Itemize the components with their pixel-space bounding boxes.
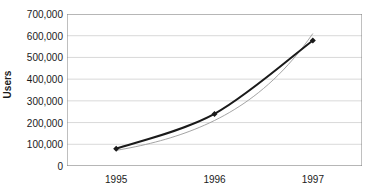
y-axis-title-label: Users [3,70,14,98]
trendline [116,34,313,151]
y-axis-tick-label: 0 [14,161,63,172]
data-series-line [116,40,313,148]
x-axis-tick-label: 1995 [105,174,127,185]
data-point-marker [113,146,119,152]
plot-frame [67,14,362,166]
y-axis-tick-label: 500,000 [14,52,63,63]
y-axis-tick-label: 100,000 [14,139,63,150]
gridlines [67,14,362,166]
y-axis-tick-label: 200,000 [14,117,63,128]
y-axis-tick-label: 700,000 [14,9,63,20]
plot-area [67,14,362,166]
x-axis-tick-label: 1996 [203,174,225,185]
x-axis-tick-label: 1997 [302,174,324,185]
y-axis-tick-label: 300,000 [14,95,63,106]
y-axis-tick-labels: 0100,000200,000300,000400,000500,000600,… [14,0,63,168]
x-axis-tick-labels: 199519961997 [67,168,362,193]
y-axis-tick-label: 600,000 [14,30,63,41]
plot-svg [67,14,362,166]
data-point-markers [113,37,316,151]
y-axis-tick-label: 400,000 [14,74,63,85]
line-chart: Users 0100,000200,000300,000400,000500,0… [0,0,371,193]
